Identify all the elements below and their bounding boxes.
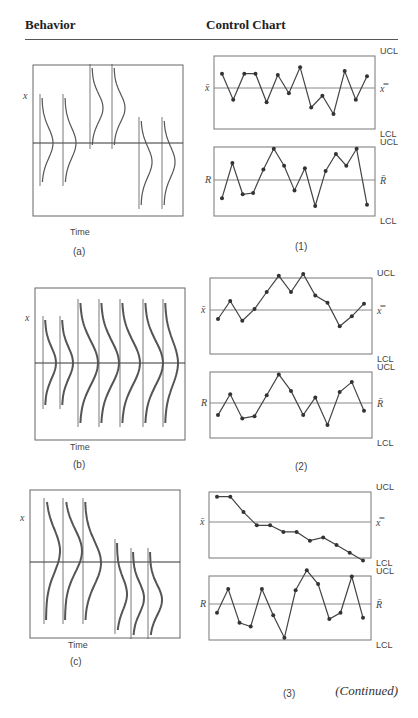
ucl-label: UCL [377, 362, 395, 372]
behavior-panel-a [33, 65, 183, 216]
data-point [362, 409, 366, 413]
xbar-label: x̄ [200, 304, 206, 315]
distribution-curve [92, 68, 103, 145]
data-point [327, 617, 331, 621]
data-point [268, 523, 272, 527]
data-line [218, 274, 364, 326]
data-point [242, 510, 246, 514]
data-point [309, 106, 313, 110]
data-point [326, 423, 330, 427]
data-point [339, 611, 343, 615]
data-point [276, 73, 280, 77]
distribution-curve [117, 543, 127, 630]
time-axis-label: Time [70, 227, 90, 237]
ucl-label: UCL [376, 566, 394, 576]
data-point [343, 69, 347, 73]
data-point [355, 147, 359, 151]
data-point [249, 625, 253, 629]
behavior-label: (c) [70, 656, 82, 667]
r-label: R [199, 598, 206, 609]
lcl-label: LCL [380, 216, 397, 226]
data-point [238, 621, 242, 625]
distribution-curve [42, 98, 53, 182]
data-point [228, 392, 232, 396]
data-point [361, 559, 365, 563]
time-axis-label: Time [70, 442, 90, 452]
data-point [301, 272, 305, 276]
data-point [228, 299, 232, 303]
data-point [294, 588, 298, 592]
data-point [338, 390, 342, 394]
distribution-curve [133, 552, 144, 635]
data-point [350, 380, 354, 384]
data-point [308, 539, 312, 543]
data-point [350, 314, 354, 318]
ucl-label: UCL [380, 46, 398, 56]
data-point [240, 416, 244, 420]
distribution-curve [65, 98, 76, 182]
data-point [305, 568, 309, 572]
data-line [218, 374, 364, 425]
data-point [277, 274, 281, 278]
data-point [365, 203, 369, 207]
data-point [282, 164, 286, 168]
distribution-curve [150, 552, 162, 635]
data-point [298, 65, 302, 69]
data-point [216, 413, 220, 417]
time-axis-label: Time [68, 640, 88, 650]
data-point [334, 152, 338, 156]
data-point [295, 530, 299, 534]
distribution-curve [85, 502, 101, 620]
data-point [287, 91, 291, 95]
x-axis-label: x [22, 90, 28, 101]
data-point [271, 613, 275, 617]
data-point [335, 543, 339, 547]
control-chart-box [210, 372, 372, 438]
data-point [361, 616, 365, 620]
data-point [254, 72, 258, 76]
data-point [226, 587, 230, 591]
r-label: R [200, 397, 207, 408]
data-point [348, 551, 352, 555]
data-point [316, 582, 320, 586]
xbarbar-label: x̿ [375, 517, 384, 528]
data-point [277, 372, 281, 376]
data-point [255, 523, 259, 527]
data-point [332, 112, 336, 116]
data-point [215, 611, 219, 615]
data-point [241, 192, 245, 196]
distribution-curve [65, 502, 82, 620]
control-chart-figure: xTime(a)xTime(b)xTime(c)x̄x̿UCLLCLRR̄UCL… [0, 0, 418, 718]
data-point [324, 169, 328, 173]
distribution-curve [46, 502, 60, 620]
data-point [289, 290, 293, 294]
data-point [293, 188, 297, 192]
data-point [301, 413, 305, 417]
data-point [313, 396, 317, 400]
ucl-label: UCL [380, 137, 398, 147]
rbar-label: R̄ [376, 398, 383, 409]
data-point [228, 495, 232, 499]
data-point [240, 319, 244, 323]
data-point [242, 72, 246, 76]
distribution-curve [114, 68, 125, 145]
xbar-label: x̄ [204, 82, 210, 93]
lcl-label: LCL [377, 438, 394, 448]
ucl-label: UCL [377, 268, 395, 278]
data-point [253, 414, 257, 418]
control-chart-box [209, 576, 371, 640]
behavior-label: (b) [73, 459, 85, 470]
data-point [265, 393, 269, 397]
lcl-label: LCL [376, 640, 393, 650]
data-point [282, 636, 286, 640]
rbar-label: R̄ [379, 175, 386, 186]
r-label: R [204, 174, 211, 185]
data-point [313, 204, 317, 208]
data-point [365, 74, 369, 78]
ucl-label: UCL [376, 482, 394, 492]
data-point [220, 196, 224, 200]
data-point [253, 307, 257, 311]
data-point [338, 324, 342, 328]
x-axis-label: x [24, 312, 30, 323]
x-axis-label: x [19, 512, 25, 523]
